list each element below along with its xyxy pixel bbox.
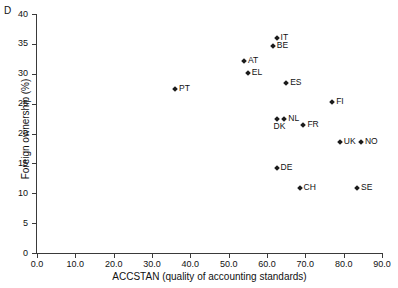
data-point-label-uk: UK	[344, 137, 356, 146]
y-tick-label-35: 35	[2, 39, 28, 48]
y-axis-title: Foreign ownership (%)	[21, 49, 31, 209]
data-point-label-at: AT	[248, 56, 258, 65]
data-point-label-es: ES	[290, 78, 301, 87]
x-tick-10.0	[75, 254, 76, 258]
y-tick-30	[32, 74, 36, 75]
diamond-marker-icon	[301, 122, 307, 128]
data-point-label-pt: PT	[179, 84, 190, 93]
x-tick-label-60.0: 60.0	[250, 260, 284, 269]
x-tick-label-20.0: 20.0	[97, 260, 131, 269]
data-point-label-dk: DK	[274, 122, 286, 131]
x-tick-60.0	[267, 254, 268, 258]
x-axis-line	[36, 253, 383, 254]
y-tick-label-40: 40	[2, 10, 28, 19]
x-tick-20.0	[114, 254, 115, 258]
x-tick-30.0	[152, 254, 153, 258]
y-tick-label-0: 0	[2, 249, 28, 258]
diamond-marker-icon	[337, 139, 343, 145]
diamond-marker-icon	[358, 139, 364, 145]
x-tick-80.0	[344, 254, 345, 258]
diamond-marker-icon	[241, 58, 247, 64]
y-tick-25	[32, 104, 36, 105]
y-tick-label-5: 5	[2, 219, 28, 228]
x-tick-label-30.0: 30.0	[135, 260, 169, 269]
data-point-label-el: EL	[252, 68, 262, 77]
x-tick-label-50.0: 50.0	[212, 260, 246, 269]
data-point-label-nl: NL	[288, 114, 299, 123]
x-tick-label-80.0: 80.0	[327, 260, 361, 269]
y-tick-20	[32, 134, 36, 135]
y-tick-0	[32, 253, 36, 254]
diamond-marker-icon	[172, 86, 178, 92]
x-tick-50.0	[229, 254, 230, 258]
diamond-marker-icon	[297, 185, 303, 191]
diamond-marker-icon	[354, 185, 360, 191]
diamond-marker-icon	[245, 70, 251, 76]
data-point-label-fr: FR	[307, 120, 318, 129]
y-tick-15	[32, 163, 36, 164]
x-tick-label-70.0: 70.0	[288, 260, 322, 269]
y-axis-line	[36, 14, 37, 254]
data-point-label-no: NO	[365, 137, 378, 146]
data-point-label-de: DE	[281, 163, 293, 172]
data-point-label-se: SE	[361, 183, 372, 192]
x-tick-90.0	[382, 254, 383, 258]
y-tick-5	[32, 223, 36, 224]
diamond-marker-icon	[274, 165, 280, 171]
x-axis-title: ACCSTAN (quality of accounting standards…	[36, 272, 383, 282]
y-tick-35	[32, 44, 36, 45]
x-tick-label-90.0: 90.0	[365, 260, 398, 269]
x-tick-label-10.0: 10.0	[58, 260, 92, 269]
x-tick-label-0.0: 0.0	[20, 260, 54, 269]
diamond-marker-icon	[270, 43, 276, 49]
diamond-marker-icon	[329, 99, 335, 105]
x-tick-70.0	[305, 254, 306, 258]
x-tick-0.0	[37, 254, 38, 258]
data-point-label-fi: FI	[336, 97, 344, 106]
data-point-label-ch: CH	[304, 183, 316, 192]
data-point-label-be: BE	[277, 41, 288, 50]
y-tick-40	[32, 14, 36, 15]
scatter-chart: D 0510152025303540 0.010.020.030.040.050…	[0, 0, 398, 288]
x-tick-40.0	[190, 254, 191, 258]
x-tick-label-40.0: 40.0	[173, 260, 207, 269]
y-tick-10	[32, 193, 36, 194]
diamond-marker-icon	[283, 80, 289, 86]
